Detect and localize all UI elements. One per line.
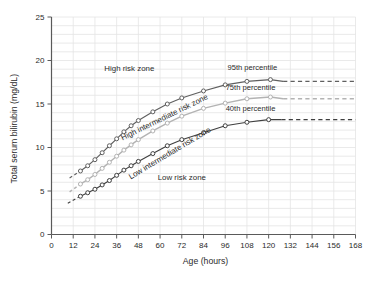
series-marker-40th-percentile: [223, 124, 227, 128]
x-tick-label-144: 144: [305, 241, 319, 250]
series-label-95th-percentile: 95th percentile: [227, 63, 277, 72]
series-marker-40th-percentile: [100, 183, 104, 187]
bilirubin-nomogram-chart: 0122436486072849610812013214415616805101…: [0, 0, 378, 286]
x-tick-label-96: 96: [221, 241, 230, 250]
y-tick-label-5: 5: [40, 187, 45, 196]
series-marker-40th-percentile: [165, 144, 169, 148]
x-axis-title: Age (hours): [183, 256, 228, 266]
series-marker-75th-percentile: [93, 172, 97, 176]
series-label-75th-percentile: 75th percentile: [226, 83, 276, 92]
x-tick-label-84: 84: [199, 241, 208, 250]
series-marker-75th-percentile: [100, 166, 104, 170]
series-marker-40th-percentile: [107, 179, 111, 183]
series-marker-75th-percentile: [115, 154, 119, 158]
x-tick-label-168: 168: [349, 241, 363, 250]
series-marker-95th-percentile: [180, 96, 184, 100]
series-marker-95th-percentile: [115, 137, 119, 141]
series-marker-40th-percentile: [245, 120, 249, 124]
series-marker-75th-percentile: [129, 143, 133, 147]
series-marker-95th-percentile: [93, 158, 97, 162]
series-marker-40th-percentile: [115, 173, 119, 177]
x-tick-label-120: 120: [262, 241, 276, 250]
series-marker-95th-percentile: [151, 110, 155, 114]
series-marker-75th-percentile: [151, 129, 155, 133]
chart-canvas: 0122436486072849610812013214415616805101…: [0, 0, 378, 286]
x-tick-label-156: 156: [327, 241, 341, 250]
series-marker-40th-percentile: [122, 168, 126, 172]
series-marker-95th-percentile: [268, 78, 272, 82]
series-marker-40th-percentile: [151, 152, 155, 156]
series-marker-75th-percentile: [122, 148, 126, 152]
series-marker-75th-percentile: [107, 160, 111, 164]
series-marker-40th-percentile: [267, 118, 271, 122]
y-tick-label-20: 20: [36, 56, 45, 65]
series-label-40th-percentile: 40th percentile: [226, 104, 276, 113]
x-tick-label-108: 108: [240, 241, 254, 250]
zone-label-high-risk: High risk zone: [104, 64, 155, 73]
x-tick-label-72: 72: [177, 241, 186, 250]
series-marker-75th-percentile: [180, 114, 184, 118]
series-marker-75th-percentile: [136, 138, 140, 142]
series-marker-40th-percentile: [136, 159, 140, 163]
series-marker-95th-percentile: [100, 151, 104, 155]
series-marker-40th-percentile: [129, 164, 133, 168]
series-marker-40th-percentile: [86, 191, 90, 195]
series-marker-40th-percentile: [93, 187, 97, 191]
series-marker-75th-percentile: [165, 121, 169, 125]
y-tick-label-15: 15: [36, 100, 45, 109]
x-tick-label-36: 36: [112, 241, 121, 250]
series-marker-95th-percentile: [165, 102, 169, 106]
x-tick-label-132: 132: [284, 241, 298, 250]
series-marker-75th-percentile: [86, 178, 90, 182]
series-marker-40th-percentile: [78, 194, 82, 198]
series-marker-75th-percentile: [268, 95, 272, 99]
series-marker-95th-percentile: [86, 164, 90, 168]
series-marker-95th-percentile: [136, 119, 140, 123]
series-marker-95th-percentile: [78, 169, 82, 173]
x-tick-label-60: 60: [156, 241, 165, 250]
series-75th-percentile: 75th percentile: [70, 83, 356, 192]
x-tick-label-12: 12: [69, 241, 78, 250]
series-marker-75th-percentile: [202, 106, 206, 110]
gridlines: [52, 17, 356, 235]
y-tick-label-10: 10: [36, 143, 45, 152]
series-line-40th-percentile: [80, 120, 281, 197]
zone-label-low-risk: Low risk zone: [158, 173, 207, 182]
x-tick-label-48: 48: [134, 241, 143, 250]
series-marker-95th-percentile: [107, 144, 111, 148]
x-tick-label-24: 24: [90, 241, 99, 250]
series-95th-percentile: 95th percentile: [70, 63, 356, 178]
y-axis-title: Total serum bilirubin (mg/dL): [9, 74, 19, 184]
series-marker-75th-percentile: [245, 97, 249, 101]
x-tick-label-0: 0: [49, 241, 54, 250]
y-tick-label-0: 0: [40, 230, 45, 239]
series-marker-75th-percentile: [78, 182, 82, 186]
y-tick-label-25: 25: [36, 13, 45, 22]
